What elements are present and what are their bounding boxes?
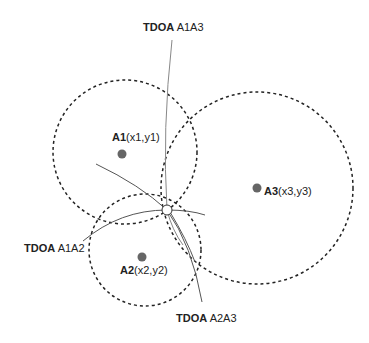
label-tdoa-a1a3: TDOA A1A3 <box>143 22 204 33</box>
label-anchor-a3: A3(x3,y3) <box>264 186 312 197</box>
anchor-dot-a1 <box>118 150 127 159</box>
hyperbola-a1a2-lower <box>83 210 205 241</box>
label-tdoa-a1a2: TDOA A1A2 <box>24 243 85 254</box>
hyperbola-a1a2 <box>96 164 167 210</box>
target-point <box>162 205 172 215</box>
tdoa-diagram <box>0 0 369 343</box>
anchor-dot-a2 <box>138 253 147 262</box>
label-anchor-a1: A1(x1,y1) <box>112 132 160 143</box>
anchor-dot-a3 <box>253 184 262 193</box>
label-tdoa-a2a3: TDOA A2A3 <box>176 313 237 324</box>
label-anchor-a2: A2(x2,y2) <box>120 265 168 276</box>
hyperbola-a2a3 <box>167 210 202 302</box>
